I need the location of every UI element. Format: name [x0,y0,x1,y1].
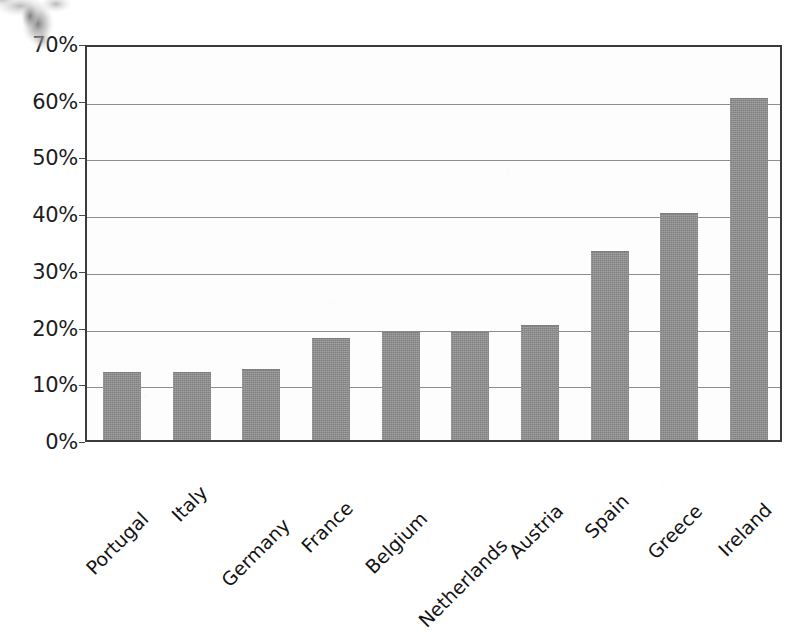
x-axis-tick-label-text: Greece [643,500,706,563]
bar-slot [436,47,506,440]
x-axis-tick-label-slot: Germany [224,444,294,551]
y-axis-tick-mark [79,272,85,273]
x-axis-tick-label: Ireland [760,452,807,514]
bar [451,332,489,440]
y-axis-tick-label: 0% [4,430,78,454]
x-axis-tick-label-text: Italy [166,481,211,526]
y-axis-tick-mark [79,385,85,386]
bar-slot [645,47,715,440]
y-axis-tick-label: 20% [4,317,78,341]
x-axis-tick-label-slot: Belgium [364,444,434,551]
bar [103,372,141,440]
y-axis-tick-label: 40% [4,203,78,227]
bar-slot [296,47,366,440]
y-axis-tick-mark [79,102,85,103]
y-axis-tick-mark [79,442,85,443]
y-axis: 0%10%20%30%40%50%60%70% [0,0,78,551]
x-axis-tick-label-text: Belgium [360,507,431,578]
bar-slot [226,47,296,440]
x-axis-tick-label-text: Ireland [714,498,776,560]
bar [591,251,629,440]
y-axis-tick-label: 30% [4,260,78,284]
y-axis-tick-label: 10% [4,373,78,397]
bar [660,213,698,440]
y-axis-tick-mark [79,158,85,159]
y-axis-tick-label: 70% [4,33,78,57]
x-axis-tick-label-slot: France [294,444,364,551]
x-axis-tick-label-text: Germany [217,514,294,591]
bar [382,332,420,440]
x-axis-tick-label-text: Portugal [81,508,152,579]
bars-layer [87,47,780,440]
plot-area [85,45,782,442]
y-axis-tick-mark [79,329,85,330]
bar [521,325,559,440]
bar-slot [87,47,157,440]
bar [173,372,211,440]
x-axis-tick-label-slot: Ireland [712,444,782,551]
y-axis-tick-label: 60% [4,90,78,114]
y-axis-tick-mark [79,45,85,46]
x-axis-tick-label-slot: Portugal [85,444,155,551]
y-axis-tick-label: 50% [4,146,78,170]
x-axis-tick-label-slot: Greece [643,444,713,551]
bar-slot [714,47,782,440]
bar [730,98,768,440]
bar-slot [157,47,227,440]
bar-slot [366,47,436,440]
bar-slot [505,47,575,440]
y-axis-tick-mark [79,215,85,216]
x-axis-tick-label-text: Spain [580,490,633,543]
x-axis-tick-label-text: France [297,497,357,557]
x-axis-tick-label-slot: Austria [503,444,573,551]
x-axis-tick-label-text: Austria [504,499,567,562]
x-axis-tick-label-slot: Netherlands [434,444,504,551]
bar [312,338,350,440]
x-axis-tick-label-slot: Spain [573,444,643,551]
x-axis: PortugalItalyGermanyFranceBelgiumNetherl… [85,444,782,551]
x-axis-tick-label-slot: Italy [155,444,225,551]
bar-slot [575,47,645,440]
bar [242,369,280,440]
